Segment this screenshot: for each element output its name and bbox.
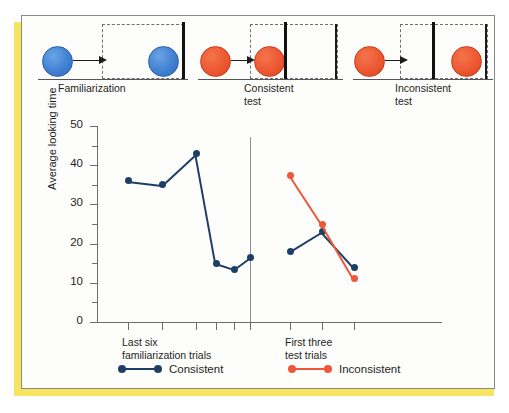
ball-end-red <box>254 46 285 77</box>
data-point-inconsistent <box>351 275 358 282</box>
data-point-consistent <box>247 254 254 261</box>
chart-legend: Consistent Inconsistent <box>22 360 494 382</box>
series-line-segment-consistent <box>128 181 162 187</box>
legend-dot-right <box>324 365 332 373</box>
x-tick <box>290 323 291 330</box>
y-tick-label: 20 <box>59 236 83 248</box>
ball-start-red <box>354 46 385 77</box>
y-tick-minor <box>92 146 97 147</box>
y-tick-major <box>90 126 97 127</box>
ground-line <box>353 79 493 80</box>
data-point-inconsistent <box>287 172 294 179</box>
y-tick-major <box>90 204 97 205</box>
data-point-consistent <box>231 266 238 273</box>
panel-stage <box>351 18 501 80</box>
plot-area: Average looking time 01020304050 Last si… <box>22 118 494 386</box>
series-line-segment-inconsistent <box>288 175 322 225</box>
legend-line <box>122 368 158 370</box>
y-tick-label: 30 <box>59 196 83 208</box>
x-tick <box>216 323 217 330</box>
legend-item-consistent: Consistent <box>118 360 223 378</box>
panel-caption-inconsistent-test: Inconsistent test <box>395 82 509 107</box>
x-tick <box>196 323 197 330</box>
schematic-row: Familiarization Consistent test <box>22 16 494 116</box>
barrier-wall <box>432 22 435 79</box>
ground-line <box>38 79 188 80</box>
x-group-label-line1: Last six <box>122 336 211 349</box>
panel-caption-line2: test <box>395 95 509 108</box>
legend-line <box>292 368 328 370</box>
motion-arrow-head <box>99 56 107 64</box>
x-tick <box>322 323 323 330</box>
panel-caption-line1: Familiarization <box>58 82 218 95</box>
legend-dot-right <box>154 365 162 373</box>
x-tick <box>162 323 163 330</box>
x-group-label-line1: First three <box>285 336 332 349</box>
motion-arrow-line <box>73 60 102 61</box>
ball-start-red <box>200 46 231 77</box>
data-point-inconsistent <box>319 221 326 228</box>
y-tick-major <box>90 322 97 323</box>
data-point-consistent <box>193 150 200 157</box>
y-tick-label: 50 <box>59 118 83 130</box>
data-point-consistent <box>213 260 220 267</box>
series-line-segment-inconsistent <box>320 224 354 280</box>
x-group-label-test: First three test trials <box>285 336 332 361</box>
data-point-consistent <box>125 177 132 184</box>
data-point-consistent <box>287 248 294 255</box>
x-group-label-familiarization: Last six familiarization trials <box>122 336 211 361</box>
y-tick-label: 10 <box>59 275 83 287</box>
schematic-panel-inconsistent-test: Inconsistent test <box>351 16 501 116</box>
panel-stage <box>36 18 196 80</box>
y-tick-minor <box>92 224 97 225</box>
motion-arrow-head <box>400 56 408 64</box>
y-tick-minor <box>92 302 97 303</box>
x-tick <box>354 323 355 330</box>
legend-dot-left <box>118 365 126 373</box>
y-tick-minor <box>92 185 97 186</box>
y-tick-label: 0 <box>59 314 83 326</box>
schematic-panel-consistent-test: Consistent test <box>196 16 351 116</box>
panel-stage <box>196 18 351 80</box>
legend-swatch-consistent <box>118 364 162 374</box>
series-line-segment-consistent <box>194 153 216 263</box>
x-tick <box>234 323 235 330</box>
panel-caption-familiarization: Familiarization <box>58 82 218 95</box>
data-point-consistent <box>159 181 166 188</box>
motion-arrow-head <box>247 56 255 64</box>
barrier-wall <box>182 22 185 79</box>
panel-caption-line1: Inconsistent <box>395 82 509 95</box>
occluder-edge-right <box>485 24 487 79</box>
legend-swatch-inconsistent <box>288 364 332 374</box>
data-point-consistent <box>351 264 358 271</box>
series-line-segment-consistent <box>290 232 323 253</box>
barrier-wall <box>284 22 287 79</box>
panel-divider-line <box>250 137 251 322</box>
legend-dot-left <box>288 365 296 373</box>
y-axis-line <box>97 126 98 322</box>
legend-item-inconsistent: Inconsistent <box>288 360 400 378</box>
y-tick-minor <box>92 263 97 264</box>
ground-line <box>198 79 343 80</box>
line-chart: Average looking time 01020304050 Last si… <box>22 118 494 386</box>
y-axis-title: Average looking time <box>46 70 58 190</box>
y-tick-major <box>90 283 97 284</box>
legend-label-consistent: Consistent <box>169 363 223 375</box>
ball-end-blue <box>148 46 179 77</box>
y-tick-major <box>90 165 97 166</box>
y-tick-label: 40 <box>59 157 83 169</box>
series-line-segment-consistent <box>162 153 197 186</box>
occluder-edge-right <box>335 24 337 79</box>
x-axis-line <box>97 322 442 323</box>
schematic-panel-familiarization: Familiarization <box>36 16 196 116</box>
ball-end-red <box>451 46 482 77</box>
x-tick <box>128 323 129 330</box>
x-tick <box>250 323 251 330</box>
legend-label-inconsistent: Inconsistent <box>339 363 400 375</box>
y-tick-major <box>90 244 97 245</box>
